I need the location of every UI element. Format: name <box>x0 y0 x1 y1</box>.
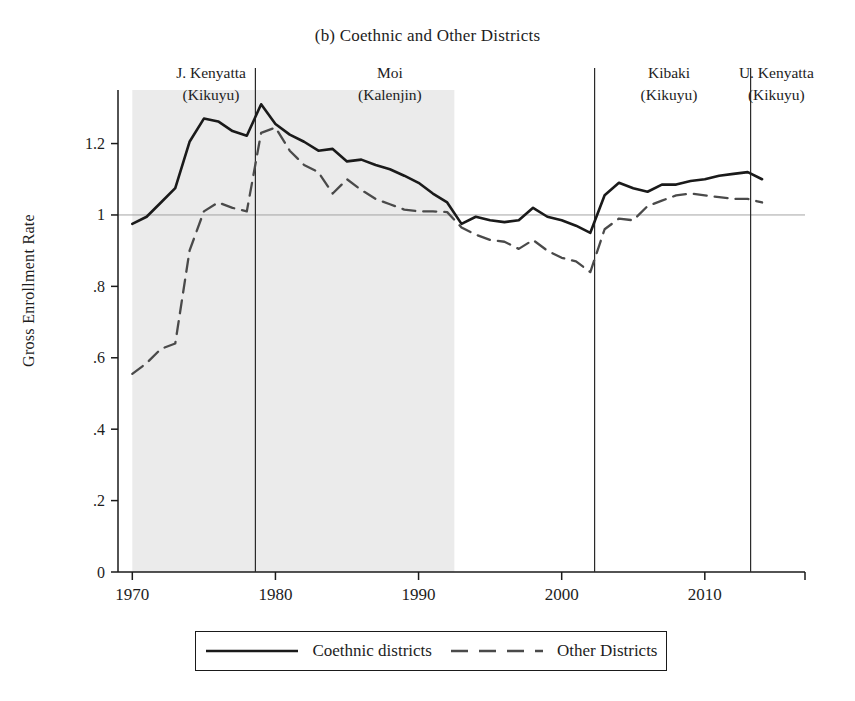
era-annotation-group: (Kalenjin) <box>358 86 422 104</box>
era-annotation-name: Kibaki <box>648 64 691 81</box>
era-annotation-group: (Kikuyu) <box>183 86 240 104</box>
chart-legend: Coethnic districts Other Districts <box>195 631 667 671</box>
y-tick-label: 0 <box>97 564 105 581</box>
y-tick-label: 1 <box>97 206 105 223</box>
y-tick-label: .6 <box>93 349 105 366</box>
y-tick-label: 1.2 <box>85 135 105 152</box>
era-annotation-group: (Kikuyu) <box>641 86 698 104</box>
legend-label-other: Other Districts <box>557 641 658 661</box>
shaded-era-region <box>132 90 454 572</box>
y-tick-label: .2 <box>93 492 105 509</box>
legend-swatch-solid <box>204 644 300 658</box>
legend-label-coethnic: Coethnic districts <box>312 641 431 661</box>
era-annotation-name: U. Kenyatta <box>739 64 814 81</box>
chart-figure: (b) Coethnic and Other Districts Gross E… <box>0 0 855 701</box>
legend-item-coethnic[interactable]: Coethnic districts <box>204 641 431 661</box>
legend-swatch-dashed <box>449 644 545 658</box>
x-tick-label: 2000 <box>545 585 579 604</box>
legend-item-other[interactable]: Other Districts <box>449 641 658 661</box>
era-annotation-name: Moi <box>377 64 404 81</box>
era-annotation-name: J. Kenyatta <box>176 64 246 81</box>
y-tick-label: .4 <box>93 421 105 438</box>
x-tick-label: 1990 <box>402 585 436 604</box>
x-tick-label: 1970 <box>115 585 149 604</box>
plot-area: 0.2.4.6.811.219701980199020002010J. Keny… <box>0 0 855 701</box>
x-tick-label: 1980 <box>258 585 292 604</box>
x-tick-label: 2010 <box>688 585 722 604</box>
era-annotation-group: (Kikuyu) <box>748 86 805 104</box>
y-tick-label: .8 <box>93 278 105 295</box>
